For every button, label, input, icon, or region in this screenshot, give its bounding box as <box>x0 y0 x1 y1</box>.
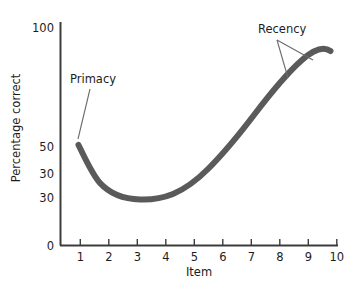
x-tick-label-6: 6 <box>219 250 226 264</box>
x-tick-label-7: 7 <box>248 250 255 264</box>
x-tick-label-2: 2 <box>105 250 112 264</box>
y-tick-label-30b: 30 <box>39 191 54 205</box>
serial-position-curve <box>79 49 331 200</box>
chart-canvas: 1 2 3 4 5 6 7 8 9 10 100 50 30 30 0 Item… <box>0 0 357 288</box>
x-tick-label-3: 3 <box>134 250 141 264</box>
x-tick-label-5: 5 <box>191 250 198 264</box>
recency-annotation: Recency <box>258 22 313 78</box>
x-tick-label-4: 4 <box>162 250 169 264</box>
y-tick-label-50: 50 <box>39 140 54 154</box>
y-tick-label-100: 100 <box>32 21 54 35</box>
x-axis-tick-labels: 1 2 3 4 5 6 7 8 9 10 <box>77 250 344 264</box>
primacy-label: Primacy <box>70 72 116 86</box>
y-axis-tick-labels: 100 50 30 30 0 <box>32 21 54 253</box>
axes-group <box>60 22 338 246</box>
y-tick-label-30a: 30 <box>39 167 54 181</box>
primacy-annotation: Primacy <box>70 72 116 139</box>
x-tick-label-1: 1 <box>77 250 84 264</box>
x-tick-label-8: 8 <box>276 250 283 264</box>
y-axis-title: Percentage correct <box>9 73 23 182</box>
recency-label: Recency <box>258 22 307 36</box>
primacy-leader-line <box>78 89 90 139</box>
serial-position-chart: 1 2 3 4 5 6 7 8 9 10 100 50 30 30 0 Item… <box>0 0 357 288</box>
x-axis-title: Item <box>186 265 212 279</box>
y-tick-label-0: 0 <box>47 239 54 253</box>
x-tick-label-10: 10 <box>329 250 344 264</box>
x-tick-label-9: 9 <box>305 250 312 264</box>
